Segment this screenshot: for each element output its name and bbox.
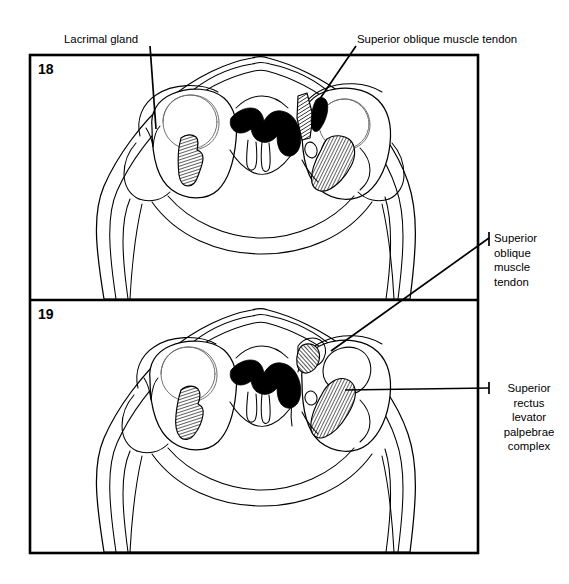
label-superior-rectus-levator-palpebrae-complex: Superior rectus levator palpebrae comple… [489,381,569,454]
figure-root: 18 19 Lacrimal gland Superior oblique mu… [0,0,569,584]
panel-number-19: 19 [38,306,54,322]
label-superior-oblique-muscle-tendon-top: Superior oblique muscle tendon [357,33,517,45]
label-superior-oblique-muscle-tendon-right: Superior oblique muscle tendon [494,231,568,289]
panel-18-anatomy [96,57,415,300]
panel-19-anatomy [96,309,415,553]
anatomy-figure-canvas [0,0,569,584]
panel-number-18: 18 [38,61,54,77]
label-lacrimal-gland: Lacrimal gland [64,33,138,45]
